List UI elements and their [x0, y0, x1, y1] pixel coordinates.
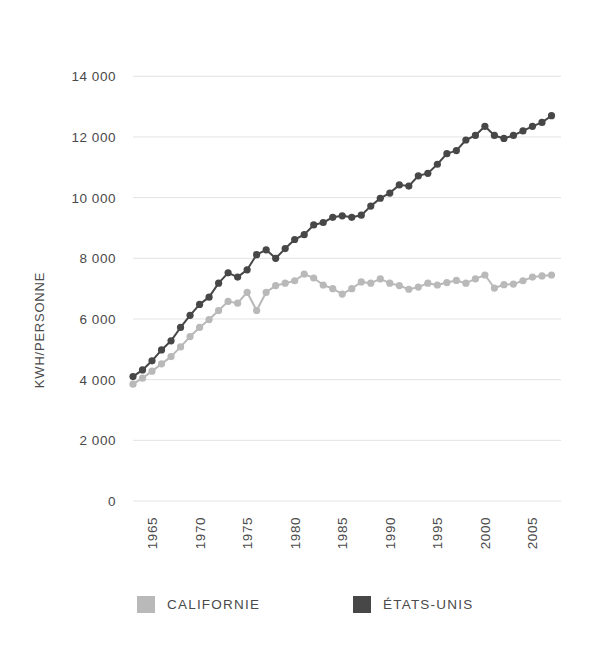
data-point-marker [367, 203, 374, 210]
data-point-marker [234, 274, 241, 281]
data-point-marker [272, 255, 279, 262]
data-point-marker [481, 271, 488, 278]
data-point-marker [339, 291, 346, 298]
data-point-marker [139, 375, 146, 382]
data-point-marker [310, 274, 317, 281]
data-point-marker [491, 132, 498, 139]
data-point-marker [263, 289, 270, 296]
data-point-marker [538, 272, 545, 279]
data-point-marker [491, 284, 498, 291]
y-tick-label: 10 000 [71, 191, 116, 206]
data-point-marker [225, 269, 232, 276]
data-point-marker [405, 182, 412, 189]
data-point-marker [510, 132, 517, 139]
data-point-marker [500, 281, 507, 288]
data-point-marker [434, 281, 441, 288]
data-point-marker [367, 280, 374, 287]
data-point-marker [158, 346, 165, 353]
data-point-marker [548, 271, 555, 278]
data-point-marker [148, 368, 155, 375]
x-tick-label: 1990 [383, 517, 398, 549]
data-point-marker [358, 212, 365, 219]
data-point-marker [167, 337, 174, 344]
x-tick-label: 1985 [335, 517, 350, 549]
data-point-marker [139, 366, 146, 373]
data-point-marker [462, 280, 469, 287]
data-point-marker [186, 333, 193, 340]
data-point-marker [291, 277, 298, 284]
data-point-marker [234, 300, 241, 307]
x-tick-label: 1975 [240, 517, 255, 549]
x-tick-label: 1965 [145, 517, 160, 549]
legend-swatch [353, 596, 371, 613]
data-point-marker [244, 289, 251, 296]
chart-figure: 02 0004 0006 0008 00010 00012 00014 000 … [0, 0, 596, 651]
data-point-marker [500, 135, 507, 142]
data-point-marker [472, 275, 479, 282]
data-point-marker [339, 212, 346, 219]
y-tick-label: 6 000 [80, 312, 116, 327]
legend-label: ÉTATS-UNIS [383, 597, 473, 612]
data-point-marker [386, 189, 393, 196]
data-point-marker [481, 123, 488, 130]
energy-consumption-line-chart: 02 0004 0006 0008 00010 00012 00014 000 … [0, 0, 596, 651]
data-point-marker [434, 161, 441, 168]
y-tick-label: 2 000 [80, 433, 116, 448]
data-point-marker [415, 172, 422, 179]
x-tick-label: 1995 [430, 517, 445, 549]
data-point-marker [358, 278, 365, 285]
data-point-marker [225, 298, 232, 305]
data-point-marker [329, 214, 336, 221]
data-point-marker [453, 147, 460, 154]
data-point-marker [396, 181, 403, 188]
x-tick-label: 2005 [525, 517, 540, 549]
data-point-marker [253, 307, 260, 314]
data-point-marker [424, 170, 431, 177]
data-point-marker [329, 285, 336, 292]
data-point-marker [167, 353, 174, 360]
data-point-marker [129, 373, 136, 380]
data-point-marker [177, 343, 184, 350]
data-point-marker [424, 280, 431, 287]
data-point-marker [158, 360, 165, 367]
data-point-marker [443, 279, 450, 286]
data-point-marker [348, 285, 355, 292]
data-point-marker [405, 286, 412, 293]
data-point-marker [529, 123, 536, 130]
data-point-marker [529, 274, 536, 281]
data-point-marker [301, 231, 308, 238]
data-point-marker [310, 221, 317, 228]
data-point-marker [282, 280, 289, 287]
data-point-marker [377, 195, 384, 202]
data-point-marker [443, 150, 450, 157]
data-point-marker [462, 136, 469, 143]
data-point-marker [472, 132, 479, 139]
y-tick-label: 14 000 [71, 69, 116, 84]
data-point-marker [215, 307, 222, 314]
data-point-marker [253, 251, 260, 258]
data-point-marker [519, 127, 526, 134]
data-point-marker [396, 282, 403, 289]
y-tick-label: 4 000 [80, 373, 116, 388]
data-point-marker [510, 280, 517, 287]
data-point-marker [282, 245, 289, 252]
data-point-marker [196, 301, 203, 308]
data-point-marker [453, 277, 460, 284]
x-tick-label: 1970 [193, 517, 208, 549]
data-point-marker [244, 266, 251, 273]
data-point-marker [129, 381, 136, 388]
x-tick-label: 1980 [288, 517, 303, 549]
data-point-marker [320, 281, 327, 288]
data-point-marker [205, 316, 212, 323]
data-point-marker [148, 357, 155, 364]
data-point-marker [320, 219, 327, 226]
data-point-marker [215, 280, 222, 287]
data-point-marker [538, 119, 545, 126]
legend-label: CALIFORNIE [167, 597, 260, 612]
y-tick-label: 8 000 [80, 251, 116, 266]
data-point-marker [263, 246, 270, 253]
y-axis-title: KWH/PERSONNE [32, 272, 47, 388]
data-point-marker [177, 324, 184, 331]
data-point-marker [519, 277, 526, 284]
data-point-marker [415, 284, 422, 291]
